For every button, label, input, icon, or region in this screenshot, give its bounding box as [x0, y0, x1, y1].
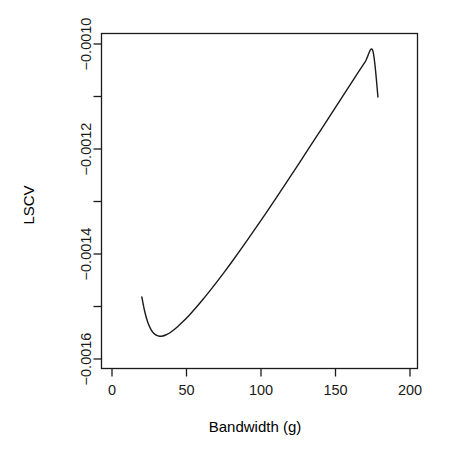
y-tick-label: −0.0012	[78, 123, 94, 176]
x-axis-title: Bandwidth (g)	[209, 418, 302, 435]
chart-page: −0.0010−0.0012−0.0014−0.0016 05010015020…	[0, 0, 450, 462]
x-tick-label: 0	[108, 382, 116, 398]
x-tick-label: 200	[398, 382, 422, 398]
x-tick-label: 150	[323, 382, 347, 398]
x-tick-label: 100	[249, 382, 273, 398]
x-tick-label: 50	[178, 382, 194, 398]
y-axis-title: LSCV	[20, 185, 37, 224]
y-tick-label: −0.0016	[78, 333, 94, 386]
plot-background	[0, 0, 450, 462]
y-tick-label: −0.0010	[78, 18, 94, 71]
lscv-bandwidth-plot: −0.0010−0.0012−0.0014−0.0016 05010015020…	[0, 0, 450, 462]
y-tick-label: −0.0014	[78, 228, 94, 281]
